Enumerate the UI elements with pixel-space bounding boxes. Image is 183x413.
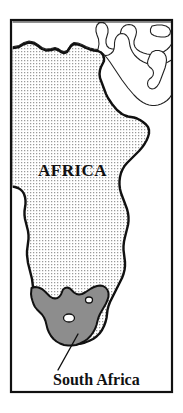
region-lesotho-enclave bbox=[64, 314, 75, 322]
map-label-africa: AFRICA bbox=[38, 161, 107, 180]
region-swaziland-enclave bbox=[86, 297, 93, 303]
map-canvas: AFRICA South Africa bbox=[0, 0, 183, 413]
africa-reference-map: AFRICA South Africa bbox=[0, 0, 183, 413]
map-label-south-africa: South Africa bbox=[53, 371, 140, 388]
region-arabian-fragment-north bbox=[151, 25, 171, 37]
